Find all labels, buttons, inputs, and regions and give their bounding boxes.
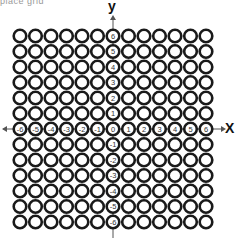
y-tick-label: 6 (111, 32, 115, 41)
grid-ring (138, 92, 151, 105)
grid-ring (29, 61, 42, 74)
grid-ring (29, 92, 42, 105)
grid-ring (29, 30, 42, 43)
grid-ring (122, 138, 135, 151)
grid-ring (60, 185, 73, 198)
grid-ring (14, 200, 27, 213)
grid-ring (122, 185, 135, 198)
grid-ring (76, 169, 89, 182)
grid-ring (29, 200, 42, 213)
grid-ring (122, 92, 135, 105)
grid-ring (45, 76, 58, 89)
grid-ring (153, 76, 166, 89)
x-tick-label: 5 (188, 125, 192, 134)
x-tick-label: 6 (204, 125, 208, 134)
grid-ring (122, 216, 135, 229)
y-tick-label: -1 (110, 140, 117, 149)
grid-ring (184, 107, 197, 120)
grid-ring (14, 61, 27, 74)
grid-ring (91, 92, 104, 105)
grid-ring (200, 169, 213, 182)
grid-ring (76, 61, 89, 74)
grid-ring (45, 216, 58, 229)
grid-ring (60, 30, 73, 43)
grid-ring (76, 154, 89, 167)
grid-ring (200, 154, 213, 167)
grid-ring (184, 185, 197, 198)
grid-ring (184, 76, 197, 89)
grid-ring (138, 138, 151, 151)
y-tick-label: 4 (111, 63, 115, 72)
grid-ring (14, 216, 27, 229)
grid-ring (200, 216, 213, 229)
grid-ring (200, 30, 213, 43)
grid-ring (169, 45, 182, 58)
grid-ring (45, 138, 58, 151)
grid-ring (29, 185, 42, 198)
grid-ring (60, 76, 73, 89)
grid-ring (14, 185, 27, 198)
grid-ring (60, 92, 73, 105)
grid-ring (76, 216, 89, 229)
grid-ring (122, 107, 135, 120)
grid-ring (91, 61, 104, 74)
grid-ring (200, 185, 213, 198)
grid-ring (45, 30, 58, 43)
grid-ring (184, 138, 197, 151)
grid-ring (60, 200, 73, 213)
grid-ring (200, 45, 213, 58)
grid-ring (29, 138, 42, 151)
grid-ring (45, 154, 58, 167)
grid-ring (14, 154, 27, 167)
grid-ring (184, 154, 197, 167)
grid-ring (153, 169, 166, 182)
grid-ring (45, 107, 58, 120)
y-tick-label: 2 (111, 94, 115, 103)
grid-ring (138, 185, 151, 198)
grid-ring (153, 92, 166, 105)
x-tick-label: 1 (126, 125, 130, 134)
grid-ring (14, 30, 27, 43)
x-tick-label: 2 (142, 125, 146, 134)
x-axis-right-arrow-icon (221, 126, 226, 132)
grid-ring (14, 169, 27, 182)
y-tick-label: -5 (110, 202, 117, 211)
grid-ring (153, 45, 166, 58)
grid-ring (153, 185, 166, 198)
grid-ring (45, 169, 58, 182)
grid-ring (169, 169, 182, 182)
grid-ring (91, 185, 104, 198)
x-tick-label: -6 (17, 125, 24, 134)
grid-ring (76, 200, 89, 213)
x-tick-label: -5 (32, 125, 39, 134)
grid-ring (91, 138, 104, 151)
y-tick-label: -4 (110, 187, 117, 196)
grid-ring (169, 92, 182, 105)
grid-ring (45, 185, 58, 198)
grid-ring (76, 45, 89, 58)
grid-ring (138, 45, 151, 58)
x-tick-label: -4 (48, 125, 55, 134)
grid-ring (29, 76, 42, 89)
grid-ring (45, 92, 58, 105)
grid-ring (14, 76, 27, 89)
grid-ring (91, 45, 104, 58)
grid-ring (76, 107, 89, 120)
grid-ring (169, 61, 182, 74)
grid-ring (200, 92, 213, 105)
grid-ring (45, 200, 58, 213)
grid-ring (184, 169, 197, 182)
grid-ring (138, 76, 151, 89)
grid-ring (184, 92, 197, 105)
grid-ring (29, 216, 42, 229)
grid-ring (153, 138, 166, 151)
grid-ring (29, 107, 42, 120)
grid-ring (91, 200, 104, 213)
grid-ring (169, 107, 182, 120)
grid-ring (169, 154, 182, 167)
grid-ring (153, 61, 166, 74)
x-tick-label: 0 (111, 125, 115, 134)
grid-ring (60, 169, 73, 182)
grid-ring (14, 92, 27, 105)
grid-ring (60, 61, 73, 74)
